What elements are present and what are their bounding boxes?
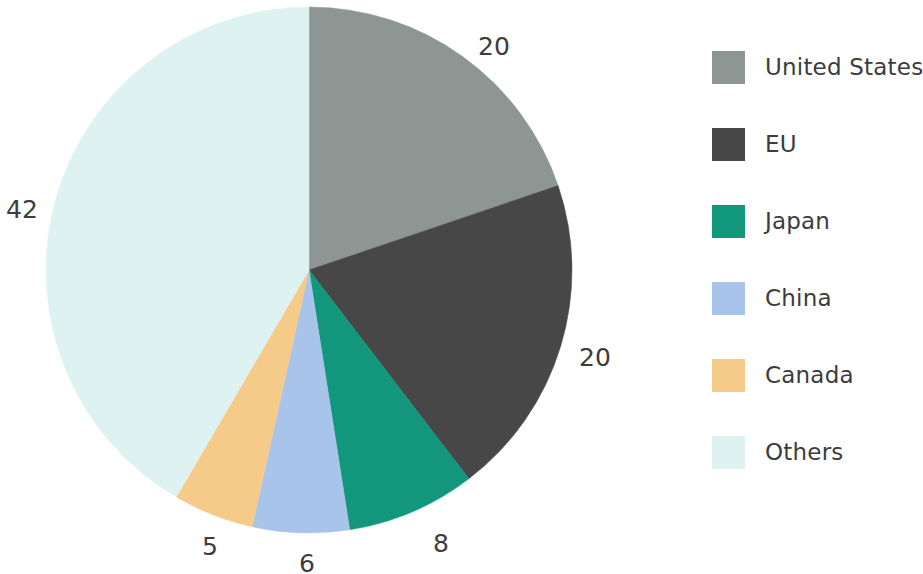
legend-swatch-canada: [712, 359, 745, 392]
pie-value-label-united-states: 20: [478, 34, 510, 59]
legend-item-others[interactable]: Others: [712, 425, 912, 502]
legend-swatch-japan: [712, 205, 745, 238]
pie-value-label-japan: 8: [433, 531, 449, 556]
legend-item-china[interactable]: China: [712, 271, 912, 348]
legend-label-eu: EU: [765, 128, 797, 161]
legend-label-japan: Japan: [765, 205, 830, 238]
chart-legend: United StatesEUJapanChinaCanadaOthers: [712, 40, 912, 502]
legend-item-united-states[interactable]: United States: [712, 40, 912, 117]
pie-value-label-eu: 20: [579, 345, 611, 370]
legend-item-eu[interactable]: EU: [712, 117, 912, 194]
legend-item-japan[interactable]: Japan: [712, 194, 912, 271]
pie-value-label-others: 42: [6, 197, 38, 222]
legend-label-others: Others: [765, 436, 844, 469]
pie-value-label-china: 6: [299, 551, 315, 574]
legend-swatch-china: [712, 282, 745, 315]
legend-swatch-united-states: [712, 51, 745, 84]
legend-label-china: China: [765, 282, 832, 315]
legend-swatch-eu: [712, 128, 745, 161]
legend-swatch-others: [712, 436, 745, 469]
legend-label-united-states: United States: [765, 51, 923, 84]
legend-item-canada[interactable]: Canada: [712, 348, 912, 425]
pie-value-label-canada: 5: [202, 534, 218, 559]
legend-label-canada: Canada: [765, 359, 854, 392]
